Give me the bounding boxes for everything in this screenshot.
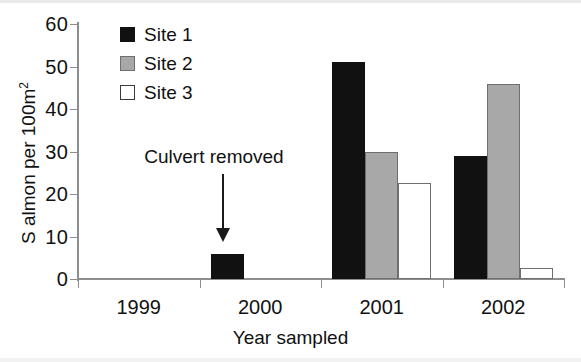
y-axis-tick-label: 50 (6, 57, 68, 77)
y-axis-tick-label: 20 (6, 184, 68, 204)
legend-label-site-3: Site 3 (144, 83, 193, 103)
scan-edge-top (0, 0, 581, 3)
legend: Site 1 Site 2 Site 3 (120, 20, 250, 107)
legend-item-site-2: Site 2 (120, 49, 250, 78)
bar-2000-site-1 (211, 254, 244, 280)
y-axis-tick (70, 279, 78, 280)
x-axis-tick (78, 280, 79, 288)
arrow-head (216, 228, 230, 242)
bar-2001-site-2 (365, 152, 398, 280)
culvert-removed-annotation: Culvert removed (104, 146, 324, 168)
bar-2002-site-3 (520, 268, 553, 279)
x-axis-tick (564, 280, 565, 288)
x-axis-tick (443, 280, 444, 288)
y-axis-tick-label-wrap: 10 (0, 227, 68, 247)
y-axis-tick-label-wrap: 50 (0, 57, 68, 77)
x-axis-tick-label: 2002 (443, 296, 563, 318)
y-axis-tick (70, 24, 78, 25)
down-arrow-icon (216, 174, 230, 244)
y-axis-tick-label: 30 (6, 142, 68, 162)
y-axis-tick (70, 152, 78, 153)
bar-chart: S almon per 100m2 0102030405060 19992000… (0, 0, 581, 362)
legend-item-site-3: Site 3 (120, 78, 250, 107)
bar-2001-site-3 (398, 183, 431, 279)
legend-item-site-1: Site 1 (120, 20, 250, 49)
y-axis-tick (70, 237, 78, 238)
y-axis-tick-label: 40 (6, 99, 68, 119)
x-axis-tick (321, 280, 322, 288)
legend-label-site-2: Site 2 (144, 54, 193, 74)
y-axis-tick-label: 60 (6, 14, 68, 34)
y-axis-tick (70, 109, 78, 110)
y-axis-tick-label: 0 (6, 269, 68, 289)
y-axis-tick-label-wrap: 0 (0, 269, 68, 289)
y-axis-tick-label-wrap: 40 (0, 99, 68, 119)
legend-swatch-site-1-icon (120, 27, 135, 42)
y-axis-tick-label: 10 (6, 227, 68, 247)
arrow-shaft (222, 174, 224, 230)
bar-2002-site-1 (454, 156, 487, 279)
bar-2001-site-1 (332, 62, 365, 279)
legend-label-site-1: Site 1 (144, 25, 193, 45)
y-axis-tick-label-wrap: 30 (0, 142, 68, 162)
y-axis-tick (70, 194, 78, 195)
y-axis-tick (70, 67, 78, 68)
x-axis-tick-label: 1999 (79, 296, 199, 318)
x-axis-tick-label: 2001 (322, 296, 442, 318)
legend-swatch-site-3-icon (120, 85, 135, 100)
scan-edge-bottom (0, 358, 581, 362)
x-axis-tick (200, 280, 201, 288)
y-axis-title-superscript: 2 (17, 82, 31, 89)
legend-swatch-site-2-icon (120, 56, 135, 71)
y-axis-tick-label-wrap: 60 (0, 14, 68, 34)
x-axis-title: Year sampled (0, 327, 581, 349)
bar-2002-site-2 (487, 84, 520, 279)
x-axis-tick-label: 2000 (200, 296, 320, 318)
y-axis-tick-label-wrap: 20 (0, 184, 68, 204)
